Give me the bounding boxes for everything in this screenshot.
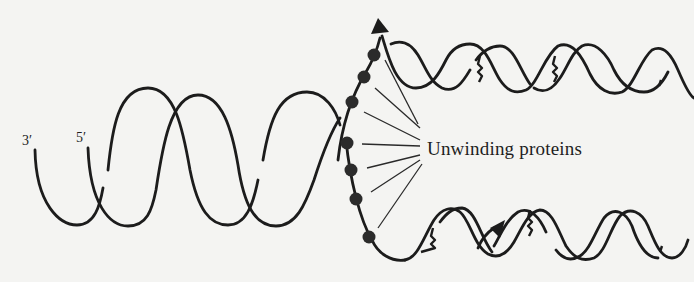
fork-direction-arrow-icon [371, 18, 389, 34]
protein-pointer-lines [362, 60, 422, 228]
new-strand-fragment [478, 56, 482, 82]
unwinding-proteins-label: Unwinding proteins [427, 138, 582, 160]
lower-daughter-helix [405, 208, 688, 260]
diagram-canvas [0, 0, 694, 282]
upper-daughter-helix [382, 36, 694, 98]
three-prime-end-label: 3′ [22, 133, 32, 149]
parental-strand-5prime [88, 95, 340, 226]
parental-strand-3prime [35, 88, 340, 225]
dna-replication-fork-diagram: 3′ 5′ Unwinding proteins [0, 0, 694, 282]
new-strand-fragment [553, 56, 557, 82]
five-prime-end-label: 5′ [76, 130, 86, 146]
